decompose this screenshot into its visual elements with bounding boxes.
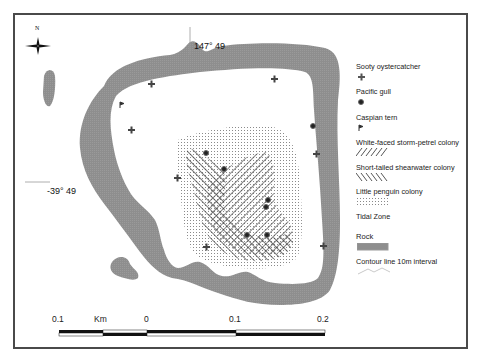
legend-label-pacific-gull: Pacific gull: [356, 87, 391, 96]
legend-label-rock: Rock: [356, 232, 373, 241]
scale-label-0: 0: [144, 314, 149, 324]
scale-label-0-2: 0.2: [317, 314, 329, 324]
markers-layer: [0, 0, 500, 361]
scale-label-0-1: 0.1: [229, 314, 241, 324]
pacific-gull-markers: [204, 124, 316, 238]
scale-label-0-1-left: 0.1: [52, 314, 64, 324]
dot-icon: [264, 205, 269, 210]
legend-label-little-penguin: Little penguin colony: [356, 187, 423, 196]
dot-icon: [357, 98, 367, 106]
plus-icon: [271, 76, 278, 83]
scale-bar: [59, 330, 325, 336]
plus-icon: [313, 151, 320, 158]
flag-icon: [120, 102, 124, 108]
legend-label-storm-petrel: White-faced storm-petrel colony: [356, 138, 459, 147]
sooty-oystercatcher-markers: [128, 76, 327, 251]
north-arrow-icon: [25, 37, 51, 55]
plus-icon: [128, 127, 135, 134]
rock-swatch-icon: [357, 243, 389, 251]
dot-icon: [266, 198, 271, 203]
plus-icon: [174, 175, 181, 182]
longitude-label: 147° 49: [194, 41, 225, 51]
legend-label-shearwater: Short-tailed shearwater colony: [356, 163, 455, 172]
dot-icon: [311, 124, 316, 129]
contour-line-icon: [358, 267, 392, 275]
dot-icon: [222, 167, 227, 172]
dot-icon: [265, 233, 270, 238]
forward-hatch-icon: [356, 148, 388, 156]
latitude-label: -39° 49: [47, 186, 76, 196]
dot-icon: [204, 151, 209, 156]
back-hatch-icon: [356, 173, 388, 181]
legend-label-tidal-zone: Tidal Zone: [356, 212, 390, 221]
caspian-tern-marker: [120, 102, 124, 108]
plus-icon: [203, 244, 210, 251]
legend-label-sooty-oystercatcher: Sooty oystercatcher: [356, 62, 421, 71]
scale-unit-label: Km: [94, 314, 107, 324]
plus-icon: [357, 73, 367, 81]
plus-icon: [320, 243, 327, 250]
plus-icon: [148, 81, 155, 88]
legend-label-caspian-tern: Caspian tern: [356, 113, 397, 122]
legend-label-contour: Contour line 10m interval: [356, 257, 437, 266]
dot-pattern-icon: [356, 197, 388, 205]
dot-icon: [245, 233, 250, 238]
flag-icon: [358, 124, 368, 132]
north-label: N: [35, 25, 39, 31]
